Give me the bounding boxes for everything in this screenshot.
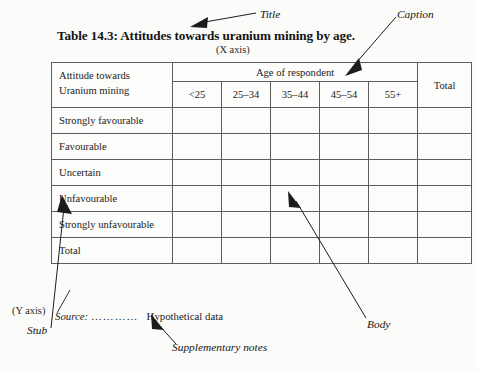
callout-label-body: Body: [367, 318, 390, 330]
data-cell-total: [418, 212, 472, 238]
column-header-age-2: 35–44: [271, 82, 320, 108]
data-cell: [222, 212, 271, 238]
row-label: Strongly unfavourable: [52, 212, 173, 238]
data-cell: [369, 238, 418, 264]
data-cell: [320, 186, 369, 212]
data-cell-total: [418, 238, 472, 264]
data-cell: [271, 160, 320, 186]
table-title: Table 14.3: Attitudes towards uranium mi…: [57, 28, 355, 44]
data-cell: [369, 108, 418, 134]
column-header-age-1: 25–34: [222, 82, 271, 108]
stub-header-line-2: Uranium mining: [59, 85, 129, 96]
source-leader-dots: …………: [91, 310, 139, 322]
data-cell-total: [418, 108, 472, 134]
table-row: Total: [52, 238, 472, 264]
stub-header: Attitude towards Uranium mining: [52, 63, 173, 108]
data-cell: [271, 212, 320, 238]
row-label: Strongly favourable: [52, 108, 173, 134]
data-cell-total: [418, 186, 472, 212]
row-label: Favourable: [52, 134, 173, 160]
data-cell-total: [418, 134, 472, 160]
data-cell: [222, 134, 271, 160]
source-value: Hypothetical data: [147, 310, 223, 322]
table-row: Favourable: [52, 134, 472, 160]
data-cell: [320, 108, 369, 134]
data-cell: [320, 212, 369, 238]
column-header-age-0: <25: [173, 82, 222, 108]
data-cell: [271, 108, 320, 134]
column-header-age-4: 55+: [369, 82, 418, 108]
x-axis-note: (X axis): [216, 44, 250, 55]
row-label: Unfavourable: [52, 186, 173, 212]
data-cell: [222, 108, 271, 134]
callout-label-caption: Caption: [397, 8, 434, 20]
data-cell: [320, 134, 369, 160]
spanner-header: Age of respondent: [173, 63, 418, 82]
source-note: Source: ………… Hypothetical data: [55, 310, 223, 322]
data-cell: [222, 160, 271, 186]
table-row: Strongly unfavourable: [52, 212, 472, 238]
data-cell: [271, 134, 320, 160]
data-cell: [320, 160, 369, 186]
y-axis-note: (Y axis): [12, 305, 45, 316]
data-cell: [173, 238, 222, 264]
data-cell: [369, 212, 418, 238]
data-cell: [173, 134, 222, 160]
data-cell: [271, 238, 320, 264]
data-cell-total: [418, 160, 472, 186]
table-header-row-spanner: Attitude towards Uranium mining Age of r…: [52, 63, 472, 82]
row-label: Total: [52, 238, 173, 264]
row-label: Uncertain: [52, 160, 173, 186]
callout-label-stub: Stub: [27, 324, 47, 336]
data-cell: [369, 160, 418, 186]
data-cell: [173, 186, 222, 212]
callout-label-title: Title: [260, 8, 280, 20]
data-cell: [222, 238, 271, 264]
callout-label-supplementary-notes: Supplementary notes: [172, 341, 267, 353]
table-row: Strongly favourable: [52, 108, 472, 134]
data-cell: [173, 108, 222, 134]
data-cell: [222, 186, 271, 212]
stub-header-line-1: Attitude towards: [59, 70, 130, 81]
data-cell: [173, 160, 222, 186]
total-column-header: Total: [418, 63, 472, 108]
data-cell: [369, 134, 418, 160]
title-callout-arrow: [190, 13, 256, 28]
column-header-age-3: 45–54: [320, 82, 369, 108]
source-label: Source:: [55, 310, 88, 322]
table-row: Unfavourable: [52, 186, 472, 212]
diagram-canvas: Table 14.3: Attitudes towards uranium mi…: [0, 0, 477, 371]
data-cell: [369, 186, 418, 212]
statistical-table: Attitude towards Uranium mining Age of r…: [51, 62, 472, 264]
data-cell: [271, 186, 320, 212]
data-cell: [320, 238, 369, 264]
table-row: Uncertain: [52, 160, 472, 186]
data-cell: [173, 212, 222, 238]
